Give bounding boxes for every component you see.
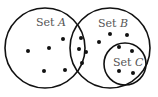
set-c-label: Set C [113, 56, 144, 69]
set-a-label: Set A [36, 16, 66, 29]
set-a-only-dots [26, 37, 67, 73]
set-b-label: Set B [98, 17, 128, 30]
set-b-only-dots [97, 32, 129, 44]
venn-diagram: Set A Set B Set C [0, 0, 158, 97]
